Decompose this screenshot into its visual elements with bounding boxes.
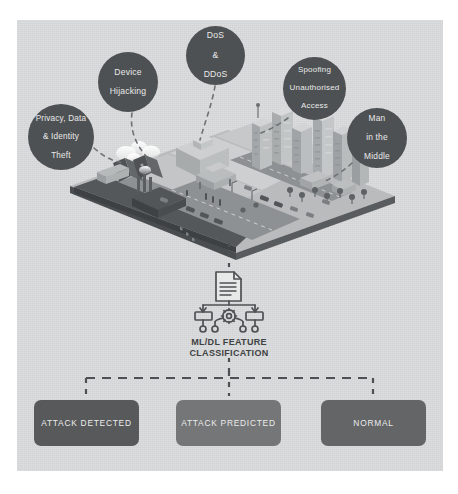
- threat-label-line: DDoS: [188, 70, 243, 80]
- threat-label-line: Theft: [30, 151, 92, 160]
- classifier-label-line2: CLASSIFICATION: [189, 348, 268, 358]
- outcome-label: NORMAL: [353, 418, 393, 428]
- threat-bubble-privacy-data-identity-theft[interactable]: Privacy, Data & Identity Theft: [28, 104, 94, 170]
- threat-label-line: Privacy, Data: [30, 114, 92, 123]
- outcome-connectors: [86, 358, 373, 396]
- threat-label-line: in the: [349, 133, 405, 142]
- threat-label-line: Hijacking: [100, 87, 156, 97]
- outcome-label: ATTACK DETECTED: [41, 418, 132, 428]
- outcome-label: ATTACK PREDICTED: [181, 418, 276, 428]
- threat-label-line: Unauthorised: [285, 84, 344, 93]
- outcome-attack-detected[interactable]: ATTACK DETECTED: [34, 400, 139, 446]
- threat-label-line: Middle: [349, 152, 405, 161]
- threat-bubble-man-in-the-middle[interactable]: Man in the Middle: [347, 108, 407, 168]
- threat-bubble-device-hijacking[interactable]: Device Hijacking: [98, 52, 158, 112]
- threat-bubble-spoofing-unauthorised-access[interactable]: Spoofing Unauthorised Access: [283, 57, 346, 120]
- classifier-label: ML/DL FEATURE CLASSIFICATION: [0, 337, 458, 360]
- outcome-normal[interactable]: NORMAL: [321, 400, 426, 446]
- connector-dos: [200, 86, 215, 140]
- ml-classification-icon: [195, 272, 263, 332]
- threat-label-line: Access: [285, 102, 344, 111]
- threat-label-line: Man: [349, 114, 405, 123]
- threat-label-line: Device: [100, 68, 156, 78]
- threat-label-line: & Identity: [30, 132, 92, 141]
- threat-label-line: &: [188, 51, 243, 61]
- threat-label-line: DoS: [188, 31, 243, 41]
- threat-label-line: Spoofing: [285, 66, 344, 75]
- classifier-label-line1: ML/DL FEATURE: [191, 337, 267, 347]
- threat-bubble-dos-ddos[interactable]: DoS & DDoS: [186, 26, 245, 85]
- outcome-attack-predicted[interactable]: ATTACK PREDICTED: [176, 400, 281, 446]
- diagram-canvas: Privacy, Data & Identity Theft Device Hi…: [0, 0, 458, 494]
